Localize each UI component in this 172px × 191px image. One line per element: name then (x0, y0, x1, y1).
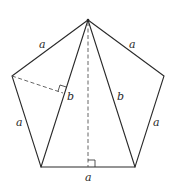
right-angle-marker-base (88, 160, 95, 167)
label-side-bottom: a (85, 171, 92, 184)
label-diagonal-right: b (117, 90, 124, 103)
diagonal-right (88, 20, 135, 167)
diagonal-left (41, 20, 88, 167)
label-diagonal-left: b (67, 90, 74, 103)
perpendicular-dashed-line (12, 76, 63, 93)
pentagon-diagram: a a a a a b b (0, 0, 172, 191)
label-side-top-right: a (129, 38, 136, 51)
label-side-left: a (16, 116, 23, 129)
label-side-top-left: a (39, 38, 46, 51)
apex-point (87, 19, 90, 22)
label-side-right: a (153, 116, 160, 129)
